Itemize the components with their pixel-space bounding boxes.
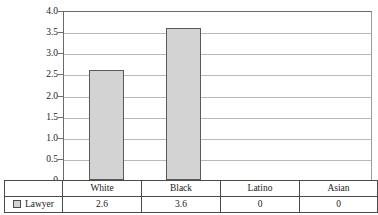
- legend-entry-lawyer: Lawyer: [5, 197, 63, 213]
- gridline: [64, 54, 371, 55]
- table-row: Lawyer 2.6 3.6 0 0: [5, 197, 378, 213]
- y-tick-label: 3.5: [32, 27, 58, 37]
- table-header-black: Black: [142, 181, 221, 197]
- table-header-asian: Asian: [300, 181, 378, 197]
- legend-swatch-icon: [13, 200, 21, 208]
- y-tick-label: 2.0: [32, 91, 58, 101]
- table-cell-white: 2.6: [63, 197, 142, 213]
- table-header-white: White: [63, 181, 142, 197]
- plot-area: [63, 11, 372, 180]
- table-cell-latino: 0: [221, 197, 300, 213]
- table-row-header: White Black Latino Asian: [5, 181, 378, 197]
- legend-label: Lawyer: [25, 199, 54, 209]
- y-tick-label: 4.0: [32, 6, 58, 16]
- y-tick-label: 0.5: [32, 154, 58, 164]
- y-axis-tick-labels: 4.0 3.5 3.0 2.5 2.0 1.5 1.0 0.5 0: [32, 11, 58, 180]
- y-tick-label: 1.5: [32, 112, 58, 122]
- table-header-latino: Latino: [221, 181, 300, 197]
- bar-black: [166, 28, 201, 180]
- bar-white: [89, 70, 124, 180]
- table-corner-blank: [5, 181, 63, 197]
- y-tick-label: 1.0: [32, 133, 58, 143]
- data-table: White Black Latino Asian Lawyer 2.6 3.6 …: [4, 180, 372, 212]
- y-tick-label: 3.0: [32, 48, 58, 58]
- gridline: [64, 33, 371, 34]
- table-cell-black: 3.6: [142, 197, 221, 213]
- table-cell-asian: 0: [300, 197, 378, 213]
- y-tick-label: 2.5: [32, 69, 58, 79]
